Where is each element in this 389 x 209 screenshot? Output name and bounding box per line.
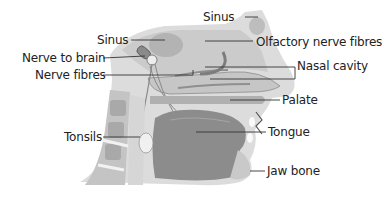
label-nasal-cavity: Nasal cavity (297, 59, 368, 73)
sinus-top-shape (249, 17, 265, 35)
label-sinus-top: Sinus (203, 10, 234, 24)
sinus-left-shape (149, 33, 183, 57)
label-nerve-to-brain: Nerve to brain (22, 51, 106, 65)
label-sinus-left: Sinus (97, 33, 128, 47)
label-jaw-bone: Jaw bone (267, 164, 320, 178)
label-tonsils: Tonsils (64, 130, 102, 144)
label-palate: Palate (282, 93, 318, 107)
label-olfactory-nerve-fibres: Olfactory nerve fibres (256, 35, 382, 49)
tongue-shape (153, 110, 246, 181)
head-cross-section-illustration (0, 0, 389, 209)
tonsils-shape (139, 133, 153, 153)
label-tongue: Tongue (268, 125, 310, 139)
label-nerve-fibres: Nerve fibres (35, 68, 106, 82)
